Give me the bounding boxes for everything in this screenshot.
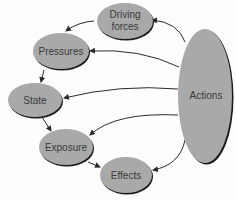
- exposure-label: Exposure: [45, 142, 88, 153]
- node-effects: Effects: [100, 157, 153, 195]
- edge-actions-to-exposure: [90, 115, 178, 135]
- node-actions: Actions: [178, 29, 234, 165]
- pressures-label: Pressures: [38, 46, 83, 57]
- node-pressures: Pressures: [33, 33, 90, 71]
- edge-exposure-to-effects: [88, 162, 100, 167]
- dpseea-diagram: Driving forces Pressures State Exposure …: [0, 0, 236, 200]
- node-state: State: [8, 83, 63, 119]
- driving-forces-label-line2: forces: [111, 21, 138, 32]
- edge-actions-to-driving: [152, 20, 185, 42]
- state-label: State: [23, 95, 47, 106]
- edge-state-to-exposure: [42, 117, 51, 131]
- node-driving-forces: Driving forces: [97, 3, 154, 41]
- effects-label: Effects: [111, 170, 141, 181]
- driving-forces-label-line1: Driving: [109, 9, 140, 20]
- actions-label: Actions: [190, 90, 223, 101]
- edge-driving-to-pressures: [66, 21, 94, 31]
- node-exposure: Exposure: [39, 129, 94, 167]
- edge-pressures-to-state: [41, 70, 44, 82]
- edge-actions-to-effects: [153, 140, 185, 170]
- edge-actions-to-pressures: [90, 51, 179, 67]
- edge-actions-to-state: [64, 88, 178, 98]
